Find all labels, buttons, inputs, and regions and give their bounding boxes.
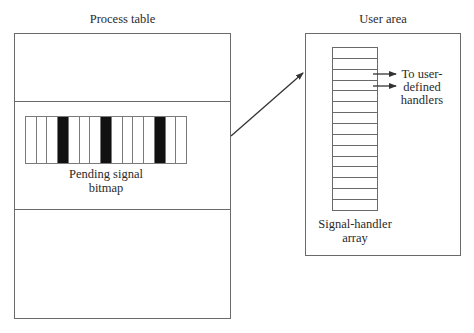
handler-array-row <box>333 91 377 102</box>
handler-array-row <box>333 48 377 59</box>
bitmap-cell <box>80 117 91 163</box>
handler-array-row <box>333 157 377 168</box>
bitmap-cell-set <box>58 117 69 163</box>
bitmap-cell <box>123 117 134 163</box>
array-label-line2: array <box>310 231 400 245</box>
handler-array-row <box>333 146 377 157</box>
handler-array-row <box>333 167 377 178</box>
handler-array-row <box>333 70 377 81</box>
array-label-line1: Signal-handler <box>310 217 400 231</box>
bitmap-cell <box>112 117 123 163</box>
bitmap-cell-set <box>155 117 166 163</box>
handler-note-line2: defined <box>397 80 447 94</box>
bitmap-cell <box>166 117 177 163</box>
process-table-divider-bottom <box>14 209 231 210</box>
handler-array-row <box>333 81 377 92</box>
bitmap-cell <box>47 117 58 163</box>
handler-array-row <box>333 113 377 124</box>
bitmap-cell <box>90 117 101 163</box>
process-to-user-area-arrow-icon <box>231 73 303 136</box>
bitmap-cell-set <box>101 117 112 163</box>
handler-array-row <box>333 124 377 135</box>
handler-array-row <box>333 178 377 189</box>
process-table-title: Process table <box>15 12 230 26</box>
handler-array-row <box>333 200 377 210</box>
bitmap-label-line1: Pending signal <box>25 167 187 181</box>
handler-array-row <box>333 135 377 146</box>
bitmap-cell <box>144 117 155 163</box>
process-table-divider-top <box>14 101 231 102</box>
user-area-title: User area <box>305 12 461 26</box>
handler-array-row <box>333 59 377 70</box>
signal-handler-array <box>332 47 378 211</box>
handler-array-row <box>333 189 377 200</box>
bitmap-cell <box>26 117 37 163</box>
bitmap-cell <box>37 117 48 163</box>
handler-note-line1: To user- <box>397 67 447 81</box>
pending-signal-bitmap <box>25 116 187 164</box>
handler-note-line3: handlers <box>397 93 447 107</box>
handler-array-row <box>333 102 377 113</box>
bitmap-cell <box>176 117 186 163</box>
bitmap-cell <box>133 117 144 163</box>
bitmap-cell <box>69 117 80 163</box>
bitmap-label-line2: bitmap <box>25 181 187 195</box>
